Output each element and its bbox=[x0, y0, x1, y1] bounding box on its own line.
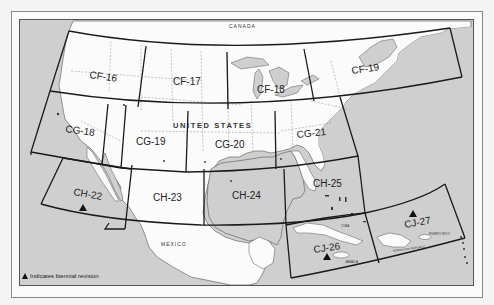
chart-label-ch-23[interactable]: CH-23 bbox=[153, 192, 182, 203]
chart-label-cf-17[interactable]: CF-17 bbox=[173, 76, 201, 87]
label-united-states: UNITED STATES bbox=[173, 121, 252, 130]
label-canada: CANADA bbox=[229, 23, 256, 29]
chart-label-ch-24[interactable]: CH-24 bbox=[232, 190, 261, 201]
label-puerto-rico: PUERTO RICO bbox=[429, 232, 450, 236]
legend: Indicates biennial revision bbox=[22, 273, 99, 279]
chart-index-map: CANADA UNITED STATES MEXICO CF-16 CF-17 … bbox=[19, 19, 474, 286]
label-cuba: CUBA bbox=[341, 224, 349, 228]
label-mexico: MEXICO bbox=[161, 241, 187, 247]
chart-label-ch-25[interactable]: CH-25 bbox=[313, 178, 342, 189]
legend-text: Indicates biennial revision bbox=[30, 273, 99, 279]
chart-label-cg-19[interactable]: CG-19 bbox=[136, 136, 166, 147]
map-svg: CANADA UNITED STATES MEXICO CF-16 CF-17 … bbox=[20, 20, 473, 285]
label-jamaica: JAMAICA bbox=[345, 260, 358, 264]
chart-label-cg-20[interactable]: CG-20 bbox=[215, 139, 245, 150]
jamaica bbox=[333, 252, 349, 258]
triangle-icon bbox=[22, 273, 28, 279]
chart-label-cf-18[interactable]: CF-18 bbox=[257, 84, 285, 95]
